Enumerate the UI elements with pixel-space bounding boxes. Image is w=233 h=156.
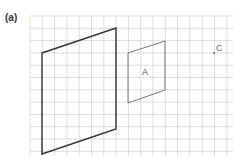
grid-diagram: A C (0, 0, 233, 156)
point-c-label: C (216, 43, 223, 53)
shape-a-label: A (142, 67, 148, 77)
point-c (213, 52, 215, 54)
grid (30, 16, 233, 156)
